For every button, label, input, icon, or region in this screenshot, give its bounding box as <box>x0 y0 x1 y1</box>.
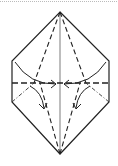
left-curved-arrow-right <box>15 62 56 84</box>
origami-diagram <box>0 0 118 166</box>
right-curved-arrow-left <box>64 62 106 84</box>
upper-right-valley-fold <box>60 12 86 83</box>
upper-left-valley-fold <box>34 12 60 83</box>
